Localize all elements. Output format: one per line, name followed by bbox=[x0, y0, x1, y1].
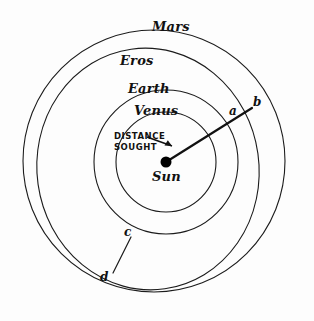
label-point-a: a bbox=[229, 105, 237, 117]
orbit-diagram: Mars Eros Earth Venus Sun a b c d DISTAN… bbox=[0, 0, 314, 321]
label-point-c: c bbox=[124, 226, 131, 238]
orbit-canvas bbox=[0, 0, 314, 321]
orbit-mars bbox=[23, 30, 285, 292]
label-eros: Eros bbox=[120, 54, 154, 67]
distance-sought-line1: DISTANCE bbox=[114, 131, 165, 142]
chord-line-c-to-d bbox=[113, 237, 131, 273]
label-point-d: d bbox=[100, 271, 108, 283]
sun-dot bbox=[161, 157, 172, 168]
radial-line-sun-to-b bbox=[166, 108, 252, 162]
label-mars: Mars bbox=[152, 20, 190, 33]
distance-sought-callout: DISTANCE SOUGHT bbox=[114, 131, 165, 152]
label-sun: Sun bbox=[152, 170, 181, 183]
label-earth: Earth bbox=[128, 82, 170, 95]
label-venus: Venus bbox=[134, 104, 178, 117]
label-point-b: b bbox=[253, 96, 261, 108]
orbit-eros bbox=[21, 34, 275, 305]
distance-sought-line2: SOUGHT bbox=[114, 142, 165, 153]
